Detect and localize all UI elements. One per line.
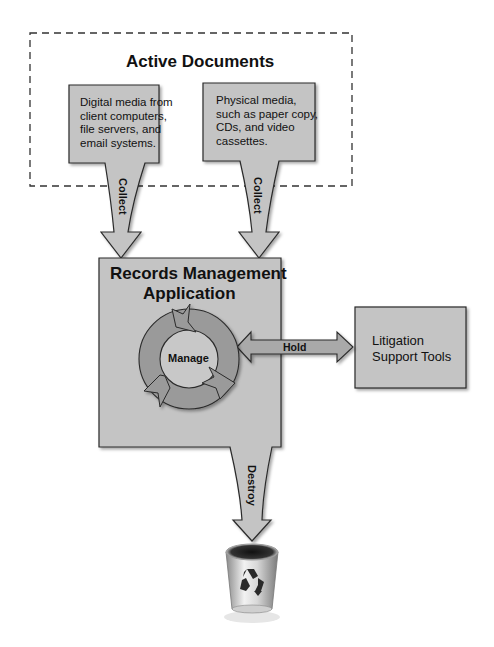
digital-media-line-1: Digital media from [80, 96, 173, 110]
destroy-label: Destroy [246, 465, 258, 506]
manage-label: Manage [168, 352, 209, 364]
litigation-line-2: Support Tools [372, 349, 451, 365]
litigation-text: Litigation Support Tools [372, 333, 451, 365]
physical-media-line-2: such as paper copy, [216, 108, 318, 122]
digital-media-text: Digital media from client computers, fil… [80, 96, 173, 150]
digital-media-line-2: client computers, [80, 110, 173, 124]
digital-media-line-4: email systems. [80, 137, 173, 151]
physical-media-line-1: Physical media, [216, 94, 318, 108]
collect-left-label: Collect [117, 178, 129, 215]
collect-right-label: Collect [252, 177, 264, 214]
records-app-title-line-2: Application [143, 284, 236, 304]
physical-media-line-4: cassettes. [216, 135, 318, 149]
active-documents-title: Active Documents [126, 52, 274, 72]
records-app-title-line-1: Records Management [110, 264, 287, 284]
litigation-line-1: Litigation [372, 333, 451, 349]
physical-media-text: Physical media, such as paper copy, CDs,… [216, 94, 318, 148]
digital-media-line-3: file servers, and [80, 123, 173, 137]
physical-media-line-3: CDs, and video [216, 121, 318, 135]
recycle-bin-icon [224, 544, 280, 623]
hold-label: Hold [283, 341, 306, 353]
